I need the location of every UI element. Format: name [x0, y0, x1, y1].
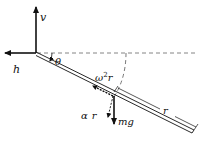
tangential-acceleration-arrow [108, 96, 113, 117]
h-label: h [13, 63, 20, 76]
centripetal-acceleration-arrow [93, 86, 113, 96]
theta-label: θ [55, 56, 61, 67]
diagram-canvas: v h θ ω2r αr mg r [0, 0, 209, 144]
alpha-r-label: αr [81, 110, 98, 121]
omega-squared-r-label: ω2r [95, 71, 114, 83]
v-label: v [40, 11, 47, 24]
mg-label: mg [118, 116, 134, 127]
r-length-label: r [163, 105, 169, 116]
